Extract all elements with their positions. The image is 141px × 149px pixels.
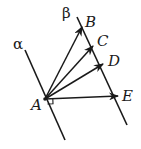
label-b: B bbox=[84, 13, 96, 31]
plane-alpha-line bbox=[25, 50, 65, 140]
point-a bbox=[43, 97, 47, 101]
label-beta: β bbox=[62, 4, 71, 22]
vector-ac bbox=[45, 46, 93, 99]
label-a: A bbox=[29, 96, 42, 114]
diagram-canvas: α β B C D E A bbox=[0, 0, 141, 149]
label-c: C bbox=[97, 32, 109, 50]
label-alpha: α bbox=[13, 35, 23, 53]
label-d: D bbox=[107, 52, 120, 70]
vector-ae bbox=[45, 96, 118, 99]
label-e: E bbox=[121, 87, 133, 105]
